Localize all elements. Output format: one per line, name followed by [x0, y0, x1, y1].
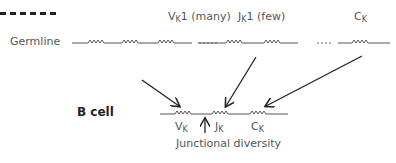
- bcell-c-label: CK: [251, 120, 264, 134]
- bcell-j-label: JK: [215, 120, 224, 134]
- diagram: VK1 (many) JK1 (few) CK Germline B cell …: [0, 0, 396, 163]
- bcell-label: B cell: [77, 105, 114, 119]
- germline-chain: [72, 40, 390, 43]
- bcell-v-label: VK: [175, 120, 188, 134]
- germline-label: Germline: [10, 35, 60, 48]
- v-segment-label: VK1 (many): [168, 10, 231, 24]
- j-segment-label: JK1 (few): [238, 10, 285, 24]
- junctional-diversity-label: Junctional diversity: [176, 137, 281, 150]
- c-segment-label: CK: [354, 10, 367, 24]
- bcell-chain: [160, 111, 288, 114]
